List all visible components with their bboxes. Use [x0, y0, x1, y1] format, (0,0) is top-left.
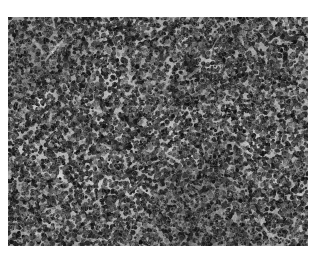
micrograph-page [0, 0, 317, 258]
micrograph-frame [8, 17, 308, 246]
histopathology-micrograph-image [8, 17, 308, 246]
